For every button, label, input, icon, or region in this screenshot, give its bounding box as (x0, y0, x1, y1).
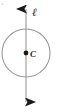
line-label: ℓ (32, 6, 37, 18)
geometry-figure: ℓ C (0, 0, 82, 112)
center-label: C (30, 49, 37, 59)
diagram-root: a. ℓ C (0, 0, 82, 112)
center-point-dot (24, 51, 29, 56)
